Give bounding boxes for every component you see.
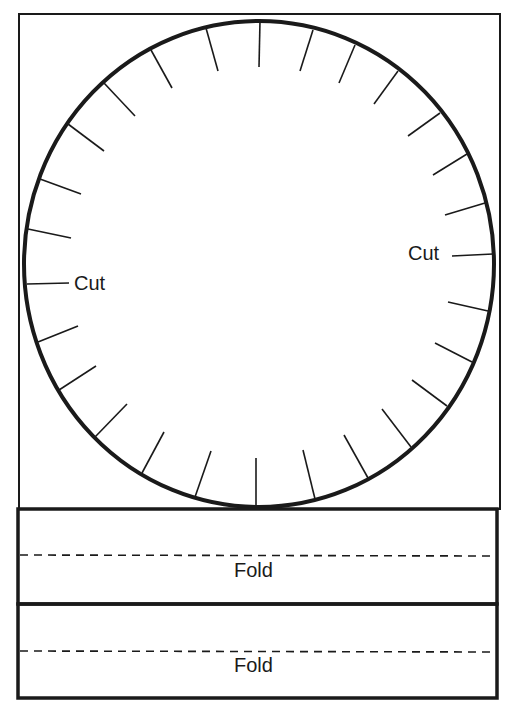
cut-tick-mark [206, 28, 218, 71]
cut-tick-mark [300, 30, 313, 71]
cut-tick-mark [195, 451, 211, 497]
cut-tick-mark [374, 71, 398, 104]
cut-tick-mark [40, 179, 81, 194]
cut-tick-mark [433, 154, 467, 175]
cut-tick-mark [95, 404, 127, 437]
cut-tick-mark [445, 203, 485, 215]
fold-dashed-line [20, 555, 495, 556]
cut-tick-mark [408, 113, 440, 136]
cut-tick-mark [339, 45, 355, 83]
cut-tick-mark [448, 302, 488, 311]
fold-label-upper: Fold [234, 560, 273, 580]
cut-label-left: Cut [74, 273, 105, 293]
cut-circle-outline [24, 21, 494, 507]
cut-tick-mark [142, 432, 164, 473]
cut-and-fold-template [0, 0, 519, 714]
cut-label-right: Cut [408, 243, 439, 263]
cut-tick-mark [59, 366, 96, 390]
fold-label-lower: Fold [234, 655, 273, 675]
cut-tick-mark [435, 343, 472, 362]
cut-tick-mark [382, 409, 411, 447]
fold-band [18, 509, 497, 604]
cut-tick-mark [27, 283, 69, 284]
cut-tick-mark [452, 254, 493, 256]
fold-dashed-line [20, 651, 495, 652]
cut-tick-mark [68, 124, 104, 151]
cut-tick-mark [303, 450, 315, 499]
cut-tick-mark [38, 326, 78, 342]
cut-tick-mark [151, 50, 172, 88]
cut-tick-mark [28, 229, 71, 238]
cut-tick-mark [412, 380, 447, 406]
cut-tick-mark [104, 83, 135, 116]
fold-band [18, 604, 497, 698]
cut-tick-mark [344, 435, 368, 478]
cut-tick-mark [259, 21, 260, 67]
